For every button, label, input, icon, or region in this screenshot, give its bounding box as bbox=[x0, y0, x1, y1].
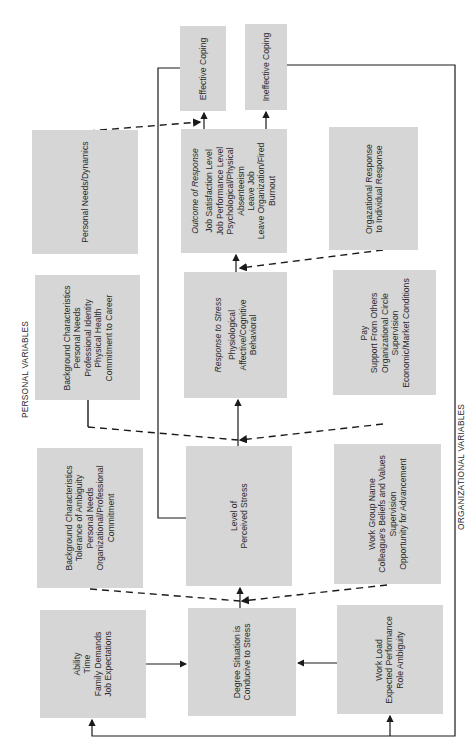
career-dashed bbox=[88, 427, 238, 440]
box-line: Time bbox=[83, 631, 93, 696]
effective-coping-label: Effective Coping bbox=[198, 37, 208, 99]
effective-coping-box: Effective Coping bbox=[180, 26, 226, 111]
ambiguity-dashed bbox=[90, 589, 240, 601]
box-line: Expected Performance bbox=[385, 616, 395, 703]
box-line: Commitment bbox=[106, 465, 116, 570]
degree-situation-box: Degree Situation is Conducive to Stress bbox=[188, 608, 296, 716]
box-line: Commitment to Career bbox=[103, 285, 113, 390]
box-line: Role Ambiguity bbox=[395, 616, 405, 703]
box-line: Pay bbox=[358, 278, 368, 387]
box-line: Job Expectations bbox=[103, 631, 113, 696]
box-line: Physical Health bbox=[93, 285, 103, 390]
personal-needs-dynamics-box: Personal Needs/Dynamics bbox=[32, 130, 138, 254]
box-line: Supervision bbox=[388, 455, 398, 573]
box-line: Personal Needs bbox=[85, 465, 95, 570]
box-line: Professional Identity bbox=[82, 285, 92, 390]
org-work-group-box: Work Group Name Colleague's Beliefs and … bbox=[334, 444, 441, 584]
organizational-variables-label: ORGANIZATIONAL VARIABLES bbox=[456, 404, 466, 530]
box-line: Absenteeism bbox=[236, 143, 246, 240]
outcome-of-response-box: Outcome of Response Job Satisfaction Lev… bbox=[181, 129, 287, 253]
box-line: Affective/Cognitive bbox=[238, 298, 248, 373]
box-line: Personal Needs/Dynamics bbox=[80, 141, 90, 242]
org-pay-box: Pay Support From Others Organizational C… bbox=[333, 270, 436, 395]
box-line: Leave Organization/Fired bbox=[257, 143, 267, 240]
box-line: Tolerance of Ambiguity bbox=[74, 465, 84, 570]
personal-ability-box: Ability Time Family Demands Job Expectat… bbox=[40, 610, 146, 718]
box-line: Work Load bbox=[374, 616, 384, 703]
box-line: Opportunity for Advancement bbox=[398, 455, 408, 573]
box-line: Burnout bbox=[267, 143, 277, 240]
response-to-stress-box: Response to Stress Physiological Affecti… bbox=[184, 272, 287, 398]
box-title: Outcome of Response bbox=[190, 143, 200, 240]
box-line: Background Characteristics bbox=[64, 465, 74, 570]
box-line: Psychological/Physical bbox=[226, 143, 236, 240]
org-work-load-box: Work Load Expected Performance Role Ambi… bbox=[337, 605, 443, 714]
box-line: to Individual Response bbox=[374, 144, 384, 234]
box-line: Background Characteristics bbox=[61, 285, 71, 390]
ineffective-coping-label: Ineffective Coping bbox=[261, 33, 271, 102]
box-line: Conducive to Stress bbox=[242, 624, 252, 701]
box-line: Personal Needs bbox=[72, 285, 82, 390]
org-response-box: Orgazational Response to Individual Resp… bbox=[329, 127, 418, 250]
box-line: Support From Others bbox=[369, 278, 379, 387]
box-line: Perceived Stress bbox=[239, 484, 249, 549]
box-line: Leave Job bbox=[246, 143, 256, 240]
box-line: Physiological bbox=[227, 298, 237, 373]
box-line: Work Group Name bbox=[367, 455, 377, 573]
box-title: Response to Stress bbox=[213, 298, 223, 373]
box-line: Family Demands bbox=[93, 631, 103, 696]
box-line: Job Satisfaction Level bbox=[205, 143, 215, 240]
workgroup-dashed bbox=[242, 585, 387, 601]
box-line: Economic/Market Conditions bbox=[400, 278, 410, 387]
personal-variables-label: PERSONAL VARIABLES bbox=[20, 321, 30, 418]
personal-ambiguity-box: Background Characteristics Tolerance of … bbox=[37, 448, 143, 588]
box-line: Organizational Circle bbox=[379, 278, 389, 387]
box-line: Behavioral bbox=[248, 298, 258, 373]
box-line: Level of bbox=[229, 484, 239, 549]
box-line: Colleague's Beliefs and Values bbox=[377, 455, 387, 573]
pay-dashed bbox=[240, 424, 383, 440]
box-line: Ability bbox=[72, 631, 82, 696]
perceived-stress-box: Level of Perceived Stress bbox=[186, 446, 292, 586]
box-line: Job Performance Level bbox=[215, 143, 225, 240]
box-line: Orgazational Response bbox=[363, 144, 373, 234]
ineffective-coping-box: Ineffective Coping bbox=[245, 24, 287, 110]
box-line: Degree Situation is bbox=[232, 624, 242, 701]
personal-career-box: Background Characteristics Personal Need… bbox=[35, 275, 140, 400]
box-line: Supervision bbox=[390, 278, 400, 387]
box-line: Organizational/Professional bbox=[95, 465, 105, 570]
